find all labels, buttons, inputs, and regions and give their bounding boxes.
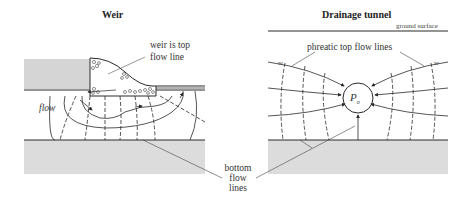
top-flow-line-label-2: flow line bbox=[150, 52, 184, 62]
bottom-flow-lines-line3: lines bbox=[218, 183, 258, 193]
weir-flow-lines bbox=[50, 91, 197, 140]
weir-panel bbox=[24, 57, 222, 178]
tunnel-title: Drainage tunnel bbox=[322, 9, 391, 20]
impervious-layer-right bbox=[268, 140, 448, 174]
flow-label: flow bbox=[39, 103, 55, 113]
weir-title: Weir bbox=[102, 9, 123, 20]
ground-surface-label: ground surface bbox=[396, 21, 438, 31]
bottom-flow-lines-label: bottom flow lines bbox=[218, 163, 258, 193]
w-label-right: w bbox=[434, 58, 439, 68]
bottom-flow-lines-line1: bottom bbox=[218, 163, 258, 173]
weir-equipotentials bbox=[60, 96, 205, 140]
pressure-subscript: o bbox=[357, 99, 360, 105]
bottom-flow-lines-line2: flow bbox=[218, 173, 258, 183]
phreatic-label: phreatic top flow lines bbox=[307, 42, 392, 52]
w-label-left: w bbox=[278, 58, 283, 68]
top-flow-line-label-1: weir is top bbox=[150, 40, 190, 50]
upstream-water bbox=[24, 60, 90, 88]
tunnel-pressure-label: Po bbox=[350, 92, 360, 107]
pressure-symbol: P bbox=[350, 91, 357, 103]
